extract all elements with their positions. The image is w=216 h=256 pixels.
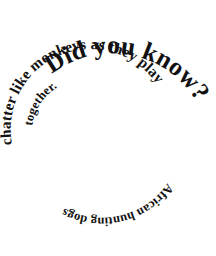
ring-middle-text: chatter like monkeys as they play (0, 35, 168, 147)
spiral-text-graphic: Did you know? chatter like monkeys as th… (0, 0, 216, 256)
ring-inner-group: African hunting dogs (59, 181, 176, 228)
ring-middle-group: chatter like monkeys as they play (0, 35, 168, 147)
ring-middle-textpath: chatter like monkeys as they play (0, 35, 168, 147)
ring-inner-text: African hunting dogs (59, 181, 176, 228)
spiral-text-canvas: Did you know? chatter like monkeys as th… (0, 0, 216, 256)
ring-inner-textpath: African hunting dogs (59, 181, 176, 228)
